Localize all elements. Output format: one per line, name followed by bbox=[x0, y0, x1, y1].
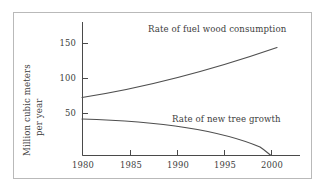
x-tick-label-1985: 1985 bbox=[114, 160, 148, 170]
annotation-fuel-wood-consumption: Rate of fuel wood consumption bbox=[148, 24, 286, 34]
x-tick-label-1980: 1980 bbox=[66, 160, 100, 170]
x-tick-label-1995: 1995 bbox=[208, 160, 242, 170]
x-tick-label-1990: 1990 bbox=[161, 160, 195, 170]
y-tick-label-150: 150 bbox=[52, 38, 76, 48]
curve-new-tree-growth bbox=[82, 119, 271, 155]
y-axis-label-line-1: Million cubic meters bbox=[22, 64, 32, 156]
y-tick-label-100: 100 bbox=[52, 73, 76, 83]
y-tick-label-50: 50 bbox=[52, 108, 76, 118]
chart-figure: 150 100 50 1980 1985 1990 1995 2000 Rate… bbox=[0, 0, 328, 192]
annotation-new-tree-growth: Rate of new tree growth bbox=[172, 114, 281, 124]
x-tick-label-2000: 2000 bbox=[255, 160, 289, 170]
y-axis-label-line-2: per year bbox=[34, 99, 44, 136]
curve-fuel-wood-consumption bbox=[82, 48, 277, 98]
y-axis-label: Million cubic meters per year bbox=[22, 20, 46, 158]
